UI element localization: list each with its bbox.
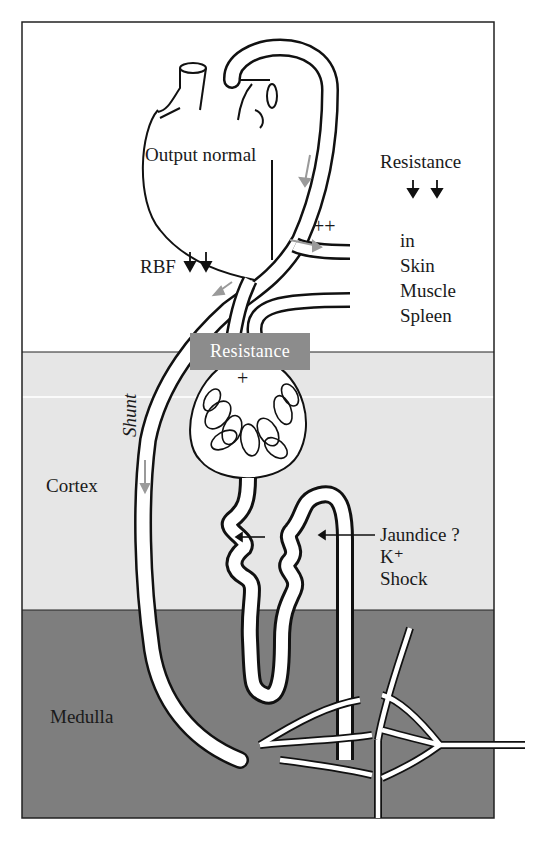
systemic-resistance-label: Resistance	[380, 152, 461, 171]
vasoconstriction-marker: ++	[313, 216, 336, 236]
organ-in-label: in	[400, 228, 456, 253]
rbf-label: RBF	[140, 257, 176, 276]
organ-spleen-label: Spleen	[400, 303, 456, 328]
systemic-branch-vessel	[295, 245, 350, 252]
glomerular-marker: +	[237, 368, 248, 388]
afferent-resistance-box: Resistance	[190, 333, 310, 370]
tubular-factors-list: Jaundice ? K⁺ Shock	[380, 524, 460, 590]
jaundice-label: Jaundice ?	[380, 524, 460, 546]
potassium-label: K⁺	[380, 546, 460, 568]
shunt-label: Shunt	[120, 394, 139, 437]
organ-muscle-label: Muscle	[400, 278, 456, 303]
renal-hemodynamics-diagram: Output normal Resistance ++ in Skin Musc…	[0, 0, 548, 851]
organ-skin-label: Skin	[400, 253, 456, 278]
heart-output-label: Output normal	[145, 145, 256, 164]
organ-list: in Skin Muscle Spleen	[400, 228, 456, 328]
shock-label: Shock	[380, 568, 460, 590]
medulla-label: Medulla	[50, 707, 113, 726]
cortex-label: Cortex	[46, 476, 98, 495]
